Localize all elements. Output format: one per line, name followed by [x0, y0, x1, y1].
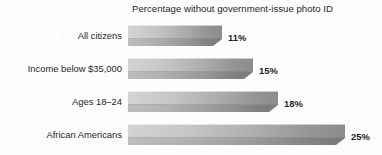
bar-top-face: [128, 58, 253, 72]
bar-top-face: [128, 25, 222, 39]
bar-highlight-line: [128, 58, 253, 59]
bar-front-face: [128, 39, 222, 46]
value-label-all-citizens: 11%: [228, 32, 246, 43]
bar-row: Ages 18–24 18%: [0, 91, 382, 121]
bar-top-face: [128, 91, 278, 105]
bar-african-americans[interactable]: [128, 124, 345, 145]
bar-highlight-line: [128, 124, 345, 125]
value-label-income-below-35000: 15%: [259, 65, 278, 76]
bar-edge-line: [128, 104, 278, 105]
bar-row: Income below $35,000 15%: [0, 58, 382, 88]
bar-income-below-35000[interactable]: [128, 58, 253, 79]
bar-highlight-line: [128, 25, 222, 26]
bar-ages-18-24[interactable]: [128, 91, 278, 112]
value-label-african-americans: 25%: [351, 131, 370, 142]
chart-title: Percentage without government-issue phot…: [132, 3, 333, 14]
plot-area: All citizens 11% Income below $35,000: [0, 20, 382, 155]
bar-front-face: [128, 72, 253, 79]
value-label-ages-18-24: 18%: [284, 98, 303, 109]
bar-chart-figure: Percentage without government-issue phot…: [0, 0, 382, 155]
category-label-income-below-35000: Income below $35,000: [0, 63, 122, 74]
bar-edge-line: [128, 38, 222, 39]
bar-highlight-line: [128, 91, 278, 92]
bar-top-face: [128, 124, 345, 138]
bar-row: African Americans 25%: [0, 124, 382, 154]
bar-front-face: [128, 105, 278, 112]
category-label-ages-18-24: Ages 18–24: [0, 96, 122, 107]
category-label-all-citizens: All citizens: [0, 30, 122, 41]
category-label-african-americans: African Americans: [0, 129, 122, 140]
bar-all-citizens[interactable]: [128, 25, 222, 46]
bar-row: All citizens 11%: [0, 25, 382, 55]
bar-edge-line: [128, 71, 253, 72]
bar-front-face: [128, 138, 345, 145]
bar-edge-line: [128, 137, 345, 138]
